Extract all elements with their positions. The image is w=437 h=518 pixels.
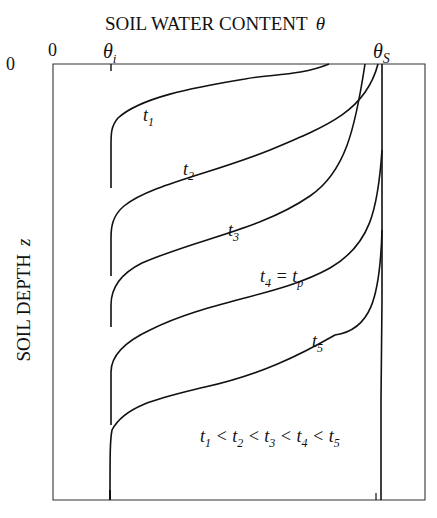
theta-s-label: θS (373, 40, 390, 66)
saturation-line (381, 64, 382, 500)
y-origin-label: 0 (6, 54, 15, 74)
x-axis-title: SOIL WATER CONTENTθ (105, 13, 325, 34)
curve-t5 (110, 230, 382, 500)
theta-i-label: θi (103, 40, 117, 66)
label-t4: t4 = tp (260, 266, 303, 290)
soil-moisture-profile-diagram: SOIL WATER CONTENTθ 0 0 θi θS t1 t2 t3 t… (0, 0, 437, 518)
x-origin-label: 0 (48, 40, 57, 60)
label-t5: t5 (312, 331, 323, 355)
time-ordering-relation: t1 < t2 < t3 < t4 < t5 (200, 426, 340, 450)
curve-t2 (111, 64, 378, 276)
y-axis-title: SOIL DEPTHz (13, 238, 34, 362)
curve-t1 (111, 64, 329, 188)
label-t3: t3 (228, 220, 239, 244)
label-t1: t1 (143, 105, 154, 129)
curve-t3 (111, 64, 365, 327)
plot-frame (53, 64, 425, 500)
